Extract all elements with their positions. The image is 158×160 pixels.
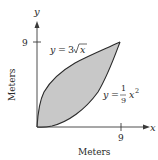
- y-axis-arrow-icon: [35, 21, 40, 28]
- upper-coef: 3: [68, 44, 74, 55]
- y-axis-label: y: [33, 6, 40, 17]
- upper-lhs: y: [49, 44, 56, 55]
- x-axis-arrow-icon: [143, 125, 150, 130]
- lower-den: 9: [121, 96, 126, 105]
- x-tick-label: 9: [118, 133, 124, 143]
- y-axis-title: Meters: [7, 68, 17, 101]
- upper-curve-label: y = 3 x: [49, 44, 87, 55]
- x-axis-title: Meters: [78, 147, 111, 157]
- region-between-curves-diagram: y x 9 9 Meters Meters y = 3 x y = 1 9 x …: [0, 0, 158, 160]
- x-axis-label: x: [150, 122, 156, 133]
- lower-lhs: y: [102, 89, 109, 100]
- upper-eq: =: [58, 44, 66, 55]
- lower-curve-label: y = 1 9 x 2: [102, 84, 139, 105]
- lower-exp: 2: [135, 87, 139, 95]
- lower-eq: =: [111, 89, 119, 100]
- y-tick-label: 9: [22, 38, 28, 48]
- upper-rad: x: [80, 44, 86, 55]
- lower-num: 1: [121, 84, 126, 93]
